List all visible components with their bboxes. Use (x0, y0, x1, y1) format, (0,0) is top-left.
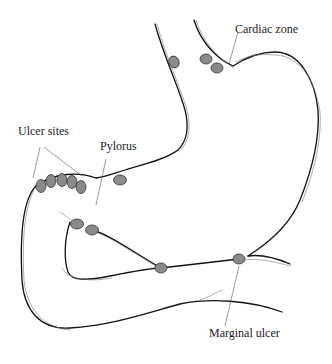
stomach-diagram: Cardiac zone Ulcer sites Pylorus Margina… (0, 0, 332, 364)
cardiac-zone-leader (229, 32, 238, 64)
pylorus-leader (96, 159, 106, 205)
marginal-ulcer-leader (225, 266, 239, 326)
lesser-curvature-outline (96, 24, 187, 178)
antrum-outline (21, 174, 282, 328)
stomach-illustration (0, 0, 332, 364)
marginal-ulcer-label: Marginal ulcer (209, 326, 280, 340)
ulcer-sites-label: Ulcer sites (18, 124, 69, 138)
ulcer-sites-leader-2 (44, 147, 82, 176)
ulcer-sites-leader-1 (33, 147, 40, 178)
ulcer-markers (36, 54, 245, 273)
cardiac-zone-label: Cardiac zone (235, 22, 298, 36)
pylorus-label: Pylorus (100, 139, 137, 153)
